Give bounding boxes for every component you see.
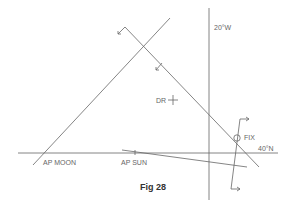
plotting-diagram <box>0 0 294 210</box>
meridian-label: 20°W <box>214 24 231 31</box>
parallel-label: 40°N <box>258 145 274 152</box>
arrow-mid <box>156 63 162 70</box>
fix-label: FIX <box>244 134 255 141</box>
ap-moon-label: AP MOON <box>43 159 76 166</box>
figure-caption: Fig 28 <box>140 183 166 192</box>
third-lop-line <box>231 119 240 189</box>
moon-lop-line <box>33 18 170 165</box>
ap-sun-label: AP SUN <box>121 159 147 166</box>
arrow-top-left <box>118 27 125 34</box>
dr-label: DR <box>156 97 166 104</box>
diagonal-lop-line <box>125 27 259 167</box>
